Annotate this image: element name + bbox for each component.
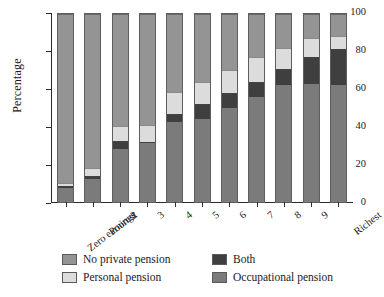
bar-segment [276,48,291,70]
legend-label: No private pension [83,253,171,265]
bar-segment [113,126,128,141]
bar-richest [330,13,347,203]
x-tick-label: 6 [237,209,248,221]
x-tick-mark [175,202,176,207]
bar-segment [304,14,319,38]
bar-segment [276,14,291,48]
x-tick-mark [147,202,148,207]
bar-segment [195,82,210,105]
bar-segment [331,14,346,36]
bar-segment [222,14,237,70]
bar-segment [195,14,210,82]
plot-area [52,13,352,203]
bar-segment [249,82,264,97]
legend-swatch [212,272,227,283]
x-tick-mark [311,202,312,207]
bar-segment [140,125,155,142]
bar-segment [222,70,237,93]
bar-3 [139,13,156,203]
bar-7 [248,13,265,203]
bar-5 [194,13,211,203]
x-tick-mark [284,202,285,207]
bar-segment [85,14,100,168]
x-tick-mark [93,202,94,207]
y-tick-mark [46,13,51,14]
x-tick-mark [202,202,203,207]
bar-segment [113,149,128,202]
y-tick-mark [46,127,51,128]
bar-segment [195,119,210,202]
x-tick-mark [338,202,339,207]
bar-segment [58,188,73,202]
bar-8 [275,13,292,203]
bar-segment [222,108,237,202]
bar-segment [167,114,182,122]
bar-segment [85,168,100,176]
bar-segment [331,36,346,49]
legend-label: Both [233,253,255,265]
bar-segment [304,38,319,57]
bar-segment [276,69,291,84]
legend-item: No private pension [62,253,212,265]
bar-segment [113,14,128,126]
bar-2 [112,13,129,203]
bar-zero-earnings [57,13,74,203]
x-tick-label: 4 [183,209,194,221]
bar-segment [304,57,319,83]
y-tick-mark [46,89,51,90]
legend-label: Occupational pension [233,271,333,283]
bar-segment [195,104,210,119]
bar-segment [113,141,128,149]
x-tick-label: 5 [210,209,221,221]
bar-4 [166,13,183,203]
legend-swatch [62,254,77,265]
x-tick-label: 8 [292,209,303,221]
bar-segment [85,179,100,203]
bar-segment [167,92,182,114]
bar-9 [303,13,320,203]
bar-segment [140,143,155,202]
bar-segment [58,14,73,183]
bar-segment [249,97,264,202]
chart-legend: No private pensionBothPersonal pensionOc… [62,250,352,286]
legend-item: Occupational pension [212,271,352,283]
legend-swatch [62,272,77,283]
x-tick-mark [120,202,121,207]
x-tick-mark [66,202,67,207]
bar-poorest [84,13,101,203]
y-tick-mark [46,51,51,52]
bar-segment [249,14,264,57]
x-tick-label: 9 [319,209,330,221]
x-tick-mark [229,202,230,207]
bar-segment [167,122,182,202]
bar-segment [140,14,155,125]
bar-segment [331,49,346,85]
y-axis-title: Percentage [10,31,25,141]
legend-swatch [212,254,227,265]
legend-item: Personal pension [62,271,212,283]
bar-segment [167,14,182,92]
y-tick-mark [46,203,51,204]
y-tick-mark [46,165,51,166]
x-tick-label: 7 [265,209,276,221]
x-tick-label: Richest [352,209,384,237]
bar-segment [331,85,346,203]
bar-segment [222,93,237,108]
x-tick-label: 3 [156,209,167,221]
bar-6 [221,13,238,203]
legend-label: Personal pension [83,271,161,283]
bar-segment [249,57,264,81]
legend-item: Both [212,253,352,265]
bar-segment [304,84,319,202]
bar-segment [276,85,291,203]
x-tick-mark [257,202,258,207]
